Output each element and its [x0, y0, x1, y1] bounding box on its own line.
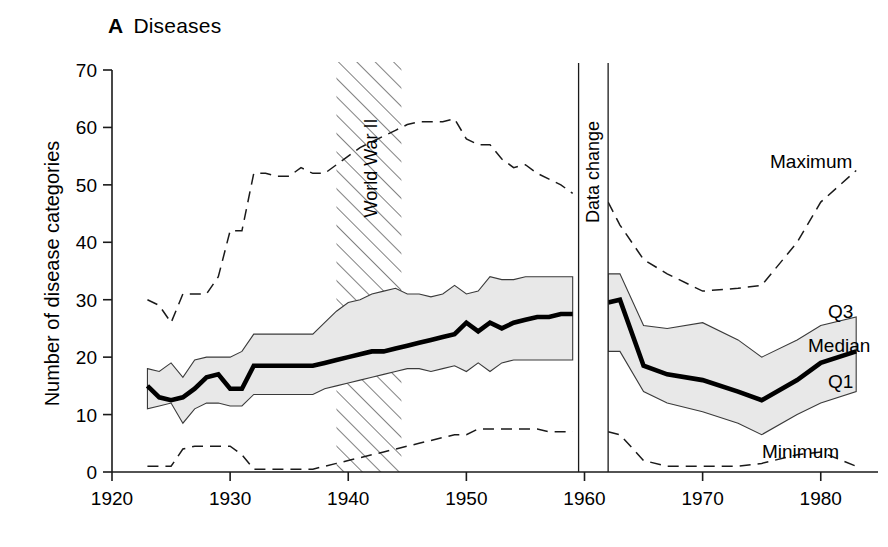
y-tick-label-20: 20	[76, 347, 97, 368]
x-tick-label-1980: 1980	[800, 488, 842, 509]
data-change-label: Data change	[583, 121, 603, 223]
chart-canvas: 0102030405060701920193019401950196019701…	[0, 0, 888, 547]
y-tick-label-0: 0	[86, 462, 97, 483]
maximum-line-late	[608, 171, 856, 292]
figure-panel-a: ADiseases Number of disease categories 0…	[0, 0, 888, 547]
y-tick-label-70: 70	[76, 60, 97, 81]
world-war-ii-label: World War II	[361, 118, 381, 217]
series-label-q3: Q3	[828, 301, 853, 322]
series-label-q1: Q1	[828, 371, 853, 392]
y-tick-label-30: 30	[76, 290, 97, 311]
x-tick-label-1970: 1970	[681, 488, 723, 509]
y-tick-label-40: 40	[76, 232, 97, 253]
x-tick-label-1940: 1940	[327, 488, 369, 509]
y-tick-label-50: 50	[76, 175, 97, 196]
x-tick-label-1920: 1920	[91, 488, 133, 509]
series-label-minimum: Minimum	[762, 441, 839, 462]
axis-group: 0102030405060701920193019401950196019701…	[76, 60, 878, 509]
data-change-mask	[579, 56, 609, 472]
series-group	[147, 119, 856, 469]
series-label-maximum: Maximum	[770, 151, 852, 172]
y-tick-label-10: 10	[76, 405, 97, 426]
x-tick-label-1930: 1930	[209, 488, 251, 509]
series-label-median: Median	[808, 335, 870, 356]
data-change-gap	[579, 56, 609, 472]
y-tick-label-60: 60	[76, 117, 97, 138]
x-tick-label-1950: 1950	[445, 488, 487, 509]
x-tick-label-1960: 1960	[563, 488, 605, 509]
